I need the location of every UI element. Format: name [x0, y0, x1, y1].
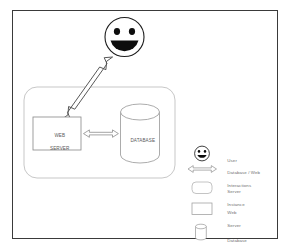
legend-smiley-face-icon: [195, 146, 210, 161]
legend-label-database: Database: [222, 231, 247, 251]
server-to-database-arrow: [84, 130, 119, 137]
legend-double-arrow-icon: [188, 166, 217, 173]
database-label: DATABASE: [120, 131, 160, 151]
user-smiley-icon: [105, 18, 144, 57]
user-to-server-arrow: [62, 57, 113, 119]
legend-cylinder-icon: [196, 224, 207, 240]
web-server-label: WEB SERVER: [33, 126, 81, 159]
legend-rectangle-icon: [192, 203, 212, 215]
legend-rounded-rectangle-icon: [192, 182, 212, 194]
diagram-canvas: WEB SERVER DATABASE User Database / Web …: [0, 0, 292, 251]
